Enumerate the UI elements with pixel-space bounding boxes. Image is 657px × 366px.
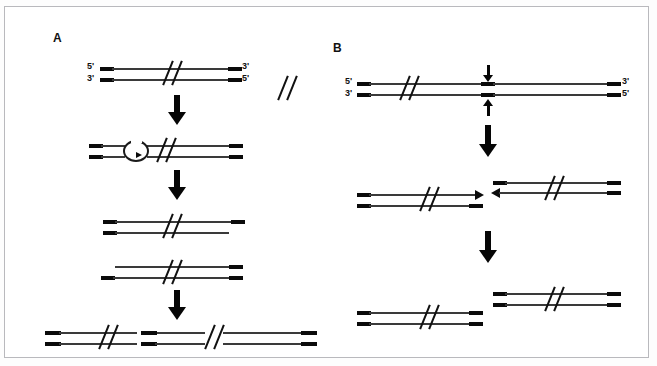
- strand-cap: [228, 78, 242, 82]
- break-mark-icon: [163, 259, 185, 285]
- process-arrow-icon: [479, 125, 497, 157]
- dna-strand-bottom-seg3: [223, 343, 303, 345]
- label-5prime-left-top-a: 5': [87, 61, 94, 71]
- break-mark-icon: [163, 60, 185, 86]
- dna-strand-bottom-seg2: [155, 343, 205, 345]
- process-arrow-icon: [168, 170, 186, 200]
- strand-cap-mid: [141, 331, 157, 335]
- strand-cap: [231, 220, 245, 224]
- strand-cap: [229, 276, 243, 280]
- strand-cap: [607, 181, 621, 185]
- strand-cap: [607, 303, 621, 307]
- strand-cap: [229, 155, 243, 159]
- d-loop-bubble-icon: [123, 140, 149, 162]
- dna-strand-top-left: [369, 83, 483, 85]
- dna-strand-bottom-right: [493, 94, 609, 96]
- dna-strand-top-seg1: [59, 332, 137, 334]
- label-5prime-right-bottom-b: 5': [622, 88, 629, 98]
- bubble-opening-mask: [131, 138, 142, 143]
- cut-arrow-top-icon: [483, 65, 493, 82]
- dna-strand-top-seg3: [223, 332, 303, 334]
- process-arrow-icon: [168, 95, 186, 125]
- strand-cap: [607, 191, 621, 195]
- break-mark-icon: [400, 75, 422, 101]
- label-5prime-right-bottom-a: 5': [242, 73, 249, 83]
- strand-direction-arrowhead-icon: [475, 190, 484, 200]
- strand-cap: [469, 322, 483, 326]
- break-mark-icon: [99, 324, 121, 350]
- break-mark-icon: [205, 324, 227, 350]
- break-mark-icon: [420, 304, 442, 330]
- label-3prime-left-bottom-b: 3': [345, 88, 352, 98]
- loop-direction-arrowhead-icon: [136, 152, 142, 158]
- label-3prime-right-top-a: 3': [242, 61, 249, 71]
- break-mark-icon: [545, 175, 567, 201]
- dna-strand-top-right: [493, 83, 609, 85]
- process-arrow-icon: [168, 290, 186, 320]
- panel-label-a: A: [53, 31, 62, 45]
- dna-strand-top-seg2: [155, 332, 205, 334]
- strand-cap: [229, 265, 243, 269]
- strand-cap: [607, 93, 621, 97]
- strand-cap: [228, 67, 242, 71]
- strand-cap: [229, 144, 243, 148]
- figure-frame: A 5' 3' 3' 5': [4, 6, 649, 358]
- label-5prime-left-top-b: 5': [345, 76, 352, 86]
- break-mark-icon: [545, 286, 567, 312]
- panel-label-b: B: [333, 41, 342, 55]
- cut-arrow-bottom-icon: [483, 99, 493, 116]
- strand-cap: [607, 82, 621, 86]
- label-3prime-left-bottom-a: 3': [87, 73, 94, 83]
- dna-strand-bottom-left: [369, 94, 483, 96]
- break-mark-icon: [420, 186, 442, 212]
- strand-cap: [469, 311, 483, 315]
- strand-cap: [301, 342, 317, 346]
- dna-strand-bottom-seg1: [59, 343, 137, 345]
- break-mark-icon: [157, 137, 179, 163]
- break-mark-icon: [278, 75, 300, 101]
- strand-cap: [469, 204, 483, 208]
- break-mark-icon: [163, 213, 185, 239]
- process-arrow-icon: [479, 231, 497, 263]
- strand-cap: [607, 292, 621, 296]
- label-3prime-right-top-b: 3': [622, 76, 629, 86]
- strand-cap: [301, 331, 317, 335]
